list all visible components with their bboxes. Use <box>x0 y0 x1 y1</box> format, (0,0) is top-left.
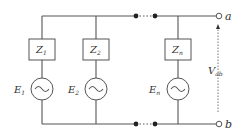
source-label-en: En <box>148 84 160 96</box>
branch-1: Z1 E1 <box>13 16 55 124</box>
branch-2: Z2 E2 <box>67 16 109 124</box>
source-label-e2: E2 <box>67 84 79 96</box>
terminal-b <box>216 121 222 127</box>
voltage-label-vab: Vab <box>208 65 223 77</box>
terminal-a <box>216 13 222 19</box>
arrow-head-icon <box>216 24 220 29</box>
source-label-e1: E1 <box>13 84 25 96</box>
junction-dot <box>134 122 139 127</box>
junction-dot <box>134 14 139 19</box>
junction-dot <box>153 14 158 19</box>
terminal-b-label: b <box>225 118 232 131</box>
junction-dot <box>153 122 158 127</box>
terminal-a-label: a <box>225 10 232 23</box>
branch-n: Zn En <box>148 16 191 124</box>
parallel-sources-circuit: Z1 E1 Z2 E2 Zn En a b Vab <box>0 0 246 137</box>
